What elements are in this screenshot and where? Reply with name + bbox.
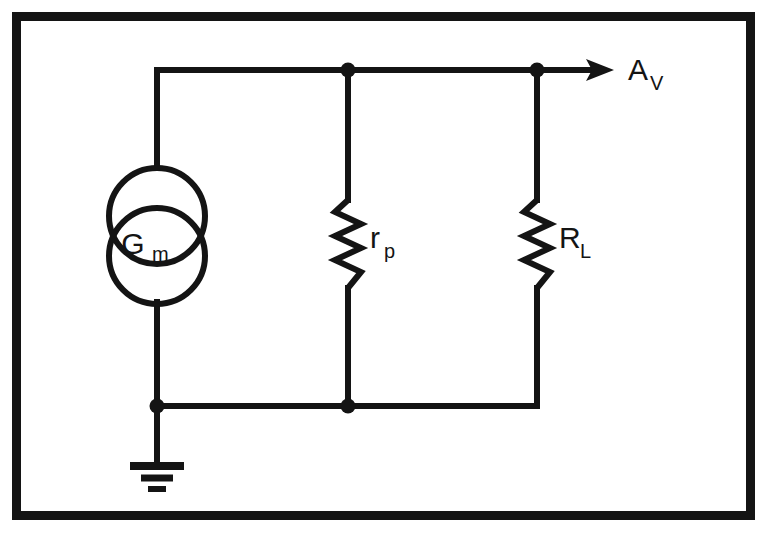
av-label-subscript: V [650, 72, 664, 94]
rl-label-subscript: L [580, 240, 591, 262]
rl-label: R [559, 221, 581, 254]
junction-node-bot-rp [341, 399, 356, 414]
junction-node-top-rp [341, 63, 356, 78]
circuit-diagram-canvas: G m r p R L [0, 0, 769, 551]
gm-label: G [121, 227, 144, 260]
rp-label: r [370, 221, 380, 254]
av-label: A [628, 53, 648, 86]
figure-root: G m r p R L [0, 0, 769, 551]
gm-label-subscript: m [152, 243, 169, 265]
rp-label-subscript: p [384, 240, 395, 262]
